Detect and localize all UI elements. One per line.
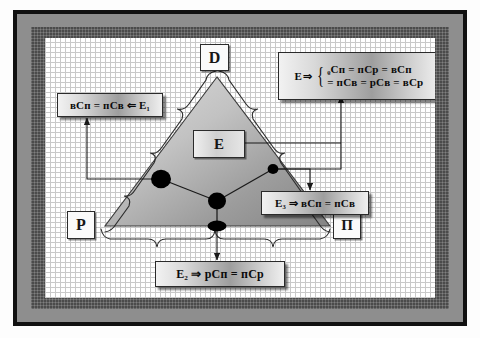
formula-top-right-lead: E	[295, 70, 303, 82]
brace-bottom-side	[101, 229, 330, 247]
formula-box-bottom[interactable]: E₂ ⇒ рCп = пCр	[155, 261, 285, 287]
node-right[interactable]	[268, 164, 279, 174]
vertex-label-bottom-left[interactable]: P	[67, 211, 95, 239]
formula-left-text: вCп = пCв ⇐ E₁	[70, 99, 150, 112]
formula-top-right-line1: ᵨCп = пCр = вCп	[327, 63, 423, 76]
diagram-canvas: D P П E E ⇒ { ᵨCп = пCр = вCп = пCв = рC…	[45, 38, 435, 298]
formula-bottom-text: E₂ ⇒ рCп = пCр	[176, 267, 264, 282]
vertex-top-text: D	[209, 49, 221, 67]
node-left[interactable]	[151, 170, 171, 188]
vertex-bottom-left-text: P	[76, 216, 86, 234]
formula-box-left[interactable]: вCп = пCв ⇐ E₁	[57, 93, 163, 117]
leader-right-node-to-top-right-box	[273, 96, 341, 169]
formula-right-text: E₃ ⇒ вCп = пCв	[275, 197, 355, 210]
formula-top-right-line2: = пCв = рCв = вCр	[327, 76, 423, 89]
node-bottom[interactable]	[208, 221, 227, 232]
center-box-text: E	[214, 136, 224, 153]
formula-box-right[interactable]: E₃ ⇒ вCп = пCв	[261, 191, 369, 215]
center-box-e[interactable]: E	[193, 130, 245, 158]
vertex-label-bottom-right[interactable]: П	[333, 211, 361, 239]
node-center[interactable]	[208, 193, 226, 210]
vertex-bottom-right-text: П	[341, 217, 353, 234]
implies-icon: ⇒	[303, 70, 312, 83]
vertex-label-top[interactable]: D	[200, 44, 229, 71]
formula-box-top-right[interactable]: E ⇒ { ᵨCп = пCр = вCп = пCв = рCв = вCр	[278, 52, 435, 100]
poster: D P П E E ⇒ { ᵨCп = пCр = вCп = пCв = рC…	[0, 0, 480, 338]
